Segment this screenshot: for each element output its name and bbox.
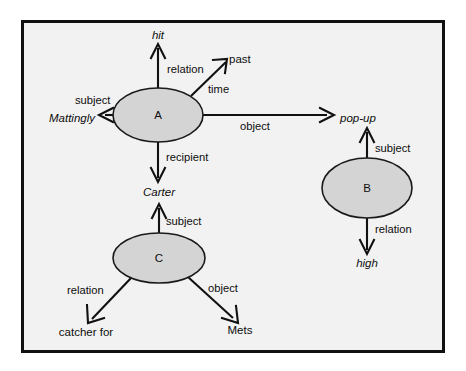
edge-label-c-subject: subject (166, 215, 202, 227)
entity-label-carter: Carter (143, 186, 176, 198)
edge-label-b-relation: relation (375, 223, 412, 235)
node-a[interactable]: A (113, 88, 203, 142)
entity-label-pop-up: pop-up (339, 112, 376, 124)
edge-label-c-relation: relation (67, 284, 104, 296)
edge-label-a-subject: subject (75, 94, 111, 106)
edge-label-b-subject: subject (375, 142, 411, 154)
diagram-root: A B C hit past Mattingly pop-up Carter h… (0, 0, 466, 371)
entity-label-catcher-for: catcher for (59, 326, 113, 338)
entity-label-hit: hit (152, 29, 165, 41)
node-a-label: A (154, 109, 162, 121)
semantic-network-diagram: A B C hit past Mattingly pop-up Carter h… (0, 0, 466, 371)
node-b[interactable]: B (322, 158, 412, 218)
entity-label-mattingly: Mattingly (49, 112, 96, 124)
entity-label-mets: Mets (228, 324, 253, 336)
entity-label-high: high (356, 257, 378, 269)
node-c[interactable]: C (113, 233, 205, 283)
entity-label-past: past (229, 53, 252, 65)
edge-label-a-time: time (208, 83, 229, 95)
edge-label-a-relation: relation (167, 63, 204, 75)
edge-label-c-object: object (208, 282, 239, 294)
edge-label-a-recipient: recipient (166, 151, 209, 163)
edge-label-a-object: object (240, 120, 271, 132)
node-b-label: B (363, 182, 371, 194)
node-c-label: C (155, 252, 163, 264)
